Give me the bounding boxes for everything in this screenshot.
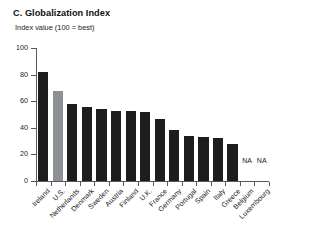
panel-subtitle: Index value (100 = best) [15,23,95,32]
bar [213,138,223,181]
bar [111,111,121,181]
bar [155,119,165,182]
bar [82,107,92,181]
x-axis-tick [240,182,241,186]
bar [96,109,106,181]
x-axis-tick [94,182,95,186]
bar [126,111,136,181]
bar [169,130,179,181]
bar [227,144,237,181]
x-axis-tick [211,182,212,186]
x-axis-tick [51,182,52,186]
x-axis-tick [138,182,139,186]
y-axis-tick-label: 40 [2,124,28,131]
x-axis-tick [254,182,255,186]
x-axis-tick [80,182,81,186]
x-axis-tick [153,182,154,186]
y-axis-tick-label: 80 [2,71,28,78]
bar [53,91,63,181]
x-axis-tick [182,182,183,186]
y-axis-tick-label: 20 [2,150,28,157]
x-axis-category-label: Spain [195,188,213,206]
bar [38,72,48,181]
x-axis-tick [196,182,197,186]
bar-series: NANA [36,48,269,181]
bar [184,136,194,181]
bar-na-label: NA [253,157,271,164]
bar [67,104,77,181]
x-axis-tick [36,182,37,186]
x-axis-tick [65,182,66,186]
y-axis-tick-label: 100 [2,44,28,51]
x-axis-tick [109,182,110,186]
globalization-index-figure: C. Globalization Index Index value (100 … [0,0,316,235]
x-axis-tick [269,182,270,186]
x-axis-tick [123,182,124,186]
bar [140,112,150,181]
bar [198,137,208,181]
x-axis-tick [167,182,168,186]
y-axis-tick-label: 0 [2,177,28,184]
panel-title: C. Globalization Index [13,8,110,18]
y-axis-tick-label: 60 [2,97,28,104]
x-axis-tick [225,182,226,186]
x-axis-category-label: Ireland [32,188,52,208]
